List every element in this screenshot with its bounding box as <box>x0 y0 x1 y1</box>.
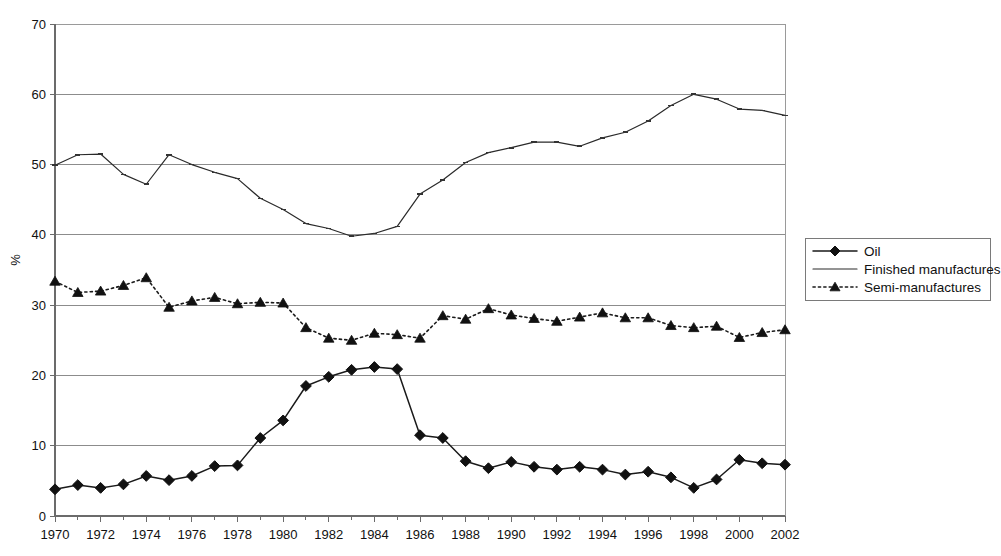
data-point <box>780 459 791 470</box>
data-point <box>392 364 403 375</box>
data-point <box>141 273 152 282</box>
data-series <box>50 94 791 494</box>
data-point <box>187 296 198 305</box>
x-tick-label-1996: 1996 <box>634 527 663 542</box>
data-point <box>369 362 380 373</box>
data-point <box>95 482 106 493</box>
data-point <box>186 471 197 482</box>
x-tick-label-1982: 1982 <box>314 527 343 542</box>
x-tick-label-1976: 1976 <box>177 527 206 542</box>
series-oil <box>50 362 791 495</box>
series-semi-manufactures <box>50 273 791 345</box>
x-tick-label-1974: 1974 <box>132 527 161 542</box>
y-axis-tick-labels: 010203040506070 <box>32 17 55 524</box>
data-point <box>346 364 357 375</box>
chart-legend: OilFinished manufacturesSemi-manufacture… <box>805 238 1001 300</box>
y-tick-label-20: 20 <box>32 368 46 383</box>
data-point <box>301 381 312 392</box>
series-line <box>55 94 785 236</box>
x-tick-label-1984: 1984 <box>360 527 389 542</box>
data-point <box>643 466 654 477</box>
plot-frame <box>55 24 785 516</box>
y-tick-label-30: 30 <box>32 298 46 313</box>
x-axis-ticks <box>55 516 785 522</box>
x-tick-label-1972: 1972 <box>86 527 115 542</box>
x-tick-label-1980: 1980 <box>269 527 298 542</box>
x-tick-label-1990: 1990 <box>497 527 526 542</box>
data-point <box>323 371 334 382</box>
data-point <box>209 461 220 472</box>
x-tick-label-1970: 1970 <box>41 527 70 542</box>
gridlines <box>55 24 785 446</box>
line-chart: 010203040506070 197019721974197619781980… <box>0 0 1001 556</box>
data-point <box>483 463 494 474</box>
data-point <box>72 480 83 491</box>
data-point <box>757 458 768 469</box>
series-line <box>55 278 785 341</box>
data-point <box>688 482 699 493</box>
y-tick-label-40: 40 <box>32 227 46 242</box>
data-point <box>50 484 61 495</box>
data-point <box>551 464 562 475</box>
x-tick-label-1988: 1988 <box>451 527 480 542</box>
data-point <box>597 464 608 475</box>
y-tick-label-10: 10 <box>32 438 46 453</box>
legend-label: Oil <box>864 244 881 259</box>
data-point <box>415 430 426 441</box>
y-tick-label-0: 0 <box>39 509 46 524</box>
x-tick-label-1992: 1992 <box>542 527 571 542</box>
data-point <box>757 328 768 337</box>
series-line <box>55 367 785 489</box>
data-point <box>141 471 152 482</box>
x-tick-label-1978: 1978 <box>223 527 252 542</box>
data-point <box>460 314 471 323</box>
data-point <box>50 276 61 285</box>
x-tick-label-2002: 2002 <box>771 527 800 542</box>
data-point <box>324 333 335 342</box>
legend-label: Finished manufactures <box>864 262 1001 277</box>
series-finished-manufactures <box>52 94 787 236</box>
x-tick-label-1998: 1998 <box>679 527 708 542</box>
data-point <box>574 461 585 472</box>
data-point <box>529 461 540 472</box>
data-point <box>118 479 129 490</box>
data-point <box>438 311 449 320</box>
data-point <box>506 456 517 467</box>
data-point <box>620 469 631 480</box>
data-point <box>597 308 608 317</box>
x-tick-label-1986: 1986 <box>406 527 435 542</box>
data-point <box>780 325 791 334</box>
chart-container: 010203040506070 197019721974197619781980… <box>0 0 1001 556</box>
y-tick-label-70: 70 <box>32 17 46 32</box>
x-tick-label-2000: 2000 <box>725 527 754 542</box>
x-axis-tick-labels: 1970197219741976197819801982198419861988… <box>41 527 800 542</box>
y-tick-label-60: 60 <box>32 87 46 102</box>
data-point <box>209 292 220 301</box>
x-tick-label-1994: 1994 <box>588 527 617 542</box>
y-tick-label-50: 50 <box>32 157 46 172</box>
data-point <box>164 475 175 486</box>
data-point <box>666 472 677 483</box>
y-axis-title: % <box>8 254 23 266</box>
data-point <box>666 321 677 330</box>
data-point <box>506 310 517 319</box>
legend-label: Semi-manufactures <box>864 280 981 295</box>
